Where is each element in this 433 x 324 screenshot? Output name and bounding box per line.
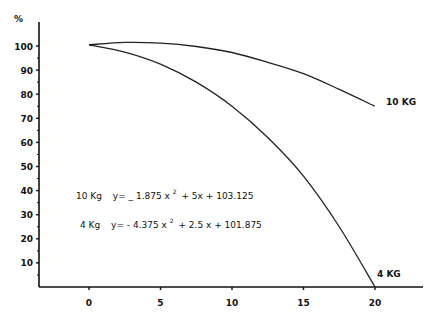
- axes: %: [14, 14, 423, 287]
- y-tick-label: 30: [20, 210, 33, 220]
- annotation-10kg-power: 2: [173, 188, 177, 195]
- annotation-4kg-eq-suffix: + 2.5 x + 101.875: [178, 220, 261, 230]
- y-tick-label: 70: [20, 114, 33, 124]
- y-tick-label: 90: [20, 66, 33, 76]
- x-tick-label: 0: [86, 298, 92, 308]
- y-tick-label: 10: [20, 258, 33, 268]
- chart: % 102030405060708090100 05101520 10 KG4 …: [0, 0, 433, 324]
- y-tick-label: 40: [20, 186, 33, 196]
- series-label-4-kg: 4 KG: [377, 269, 401, 279]
- series-line-4-kg: [89, 45, 375, 287]
- x-tick-label: 10: [226, 298, 239, 308]
- annotation-4kg-label: 4 Kg: [80, 220, 100, 230]
- annotation-10kg-eq-suffix: + 5x + 103.125: [181, 191, 253, 201]
- x-tick-label: 5: [157, 298, 163, 308]
- annotation-10kg-eq-prefix: y= _ 1.875 x: [113, 191, 171, 201]
- x-tick-label: 15: [297, 298, 310, 308]
- annotation-4kg-power: 2: [170, 217, 174, 224]
- y-tick-label: 60: [20, 138, 33, 148]
- y-tick-label: 50: [20, 162, 33, 172]
- y-tick-label: 20: [20, 234, 33, 244]
- annotation-10kg-label: 10 Kg: [76, 191, 102, 201]
- annotation-4kg-eq-prefix: y= - 4.375 x: [111, 220, 167, 230]
- y-axis-label: %: [14, 14, 23, 24]
- series-label-10-kg: 10 KG: [386, 97, 416, 107]
- y-tick-label: 100: [14, 42, 33, 52]
- x-tick-label: 20: [369, 298, 382, 308]
- series-line-10-kg: [89, 42, 375, 106]
- y-tick-label: 80: [20, 90, 33, 100]
- annotation-10kg: 10 Kg y= _ 1.875 x 2 + 5x + 103.125: [76, 186, 253, 201]
- annotation-4kg: 4 Kg y= - 4.375 x 2 + 2.5 x + 101.875: [80, 215, 262, 230]
